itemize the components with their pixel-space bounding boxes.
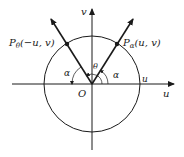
point-p-theta [65,42,69,46]
unit-circle-diagram: v u O u Pα(u, v) Pθ(−u, v) θ α α [0,0,184,157]
angle-left-alpha-label: α [64,68,70,78]
p-alpha-label: Pα(u, v) [122,37,161,50]
angle-right-alpha-label: α [113,70,119,80]
horizontal-axis-label: u [163,88,169,99]
point-p-alpha [115,42,119,46]
vertical-axis-label: v [81,6,87,17]
circle-intercept-label: u [142,74,148,84]
angle-theta-label: θ [93,62,98,71]
p-theta-label: Pθ(−u, v) [8,37,55,50]
origin-label: O [78,88,86,99]
arc-left-alpha [72,67,81,84]
